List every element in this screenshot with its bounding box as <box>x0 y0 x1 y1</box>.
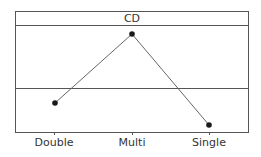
chart: CD Double Multi Single <box>0 0 261 157</box>
x-label-double: Double <box>35 136 74 149</box>
plot-frame <box>16 12 249 133</box>
data-point-double <box>52 100 58 106</box>
data-point-multi <box>129 31 135 37</box>
x-label-multi: Multi <box>119 136 146 149</box>
panel-title: CD <box>124 12 140 25</box>
series-line <box>55 34 209 125</box>
data-point-single <box>206 122 212 128</box>
x-label-single: Single <box>192 136 226 149</box>
